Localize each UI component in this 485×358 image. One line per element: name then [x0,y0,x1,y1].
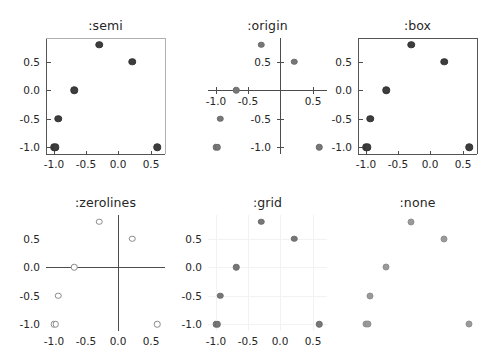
data-point [408,218,415,225]
y-tick-label: 0.5 [170,234,202,245]
y-tick-label: 0.5 [239,57,271,68]
data-point [55,115,63,123]
x-tick-mark [248,87,249,94]
data-point [217,293,224,300]
y-tick-mark [359,62,363,63]
x-tick-label: 0.5 [143,336,160,347]
y-tick-label: 0.5 [8,234,40,245]
y-tick-mark [359,90,363,91]
x-tick-mark [216,87,217,94]
panel-none: :none [0,0,485,358]
frame-top-spine [46,38,165,39]
x-tick-label: 0.0 [422,159,439,170]
panel-origin: :origin-1.0-0.50.50.5-0.5-1.0 [0,0,485,358]
x-tick-mark [313,87,314,94]
data-point [291,59,298,66]
x-tick-mark [86,151,87,155]
x-tick-label: 0.5 [305,96,322,107]
y-tick-label: -1.0 [8,319,40,330]
x-tick-label: -0.5 [238,336,259,347]
data-point [291,236,298,243]
gridline-vertical [280,215,281,331]
y-tick-label: 0.0 [320,85,352,96]
y-tick-mark [47,62,51,63]
data-point [52,321,59,328]
data-point [153,143,161,151]
data-point [258,219,265,226]
y-tick-label: -0.5 [8,291,40,302]
data-point [441,235,448,242]
x-tick-label: 0.5 [305,336,322,347]
x-tick-label: -1.0 [206,96,227,107]
zeroline-horizontal [46,267,165,268]
data-point [362,143,370,151]
y-tick-mark [359,147,363,148]
x-tick-label: -0.5 [76,336,97,347]
x-tick-label: 0.0 [110,336,127,347]
data-point [50,143,58,151]
data-point [362,321,369,328]
data-point [383,87,391,95]
frame-right-spine [165,38,166,154]
x-tick-label: -0.5 [238,96,259,107]
data-point [51,321,58,328]
x-tick-mark [463,151,464,155]
data-point [383,264,390,271]
y-tick-mark [359,119,363,120]
panel-box: :box-1.0-0.50.00.50.50.0-0.5-1.0 [0,0,485,358]
data-point [316,321,323,328]
y-tick-label: -1.0 [170,319,202,330]
data-point [316,144,323,151]
x-tick-mark [366,151,367,155]
frame-bottom-spine [46,154,165,155]
y-tick-label: 0.0 [170,262,202,273]
y-tick-label: 0.0 [8,262,40,273]
frame-bottom-spine [358,154,477,155]
data-point [52,143,60,151]
gridline-vertical [248,215,249,331]
gridline-horizontal [208,324,327,325]
frame-left-spine [358,38,359,154]
data-point [213,321,220,328]
panel-title-grid: :grid [208,195,327,210]
x-tick-mark [151,151,152,155]
y-tick-mark [47,147,51,148]
y-tick-label: -0.5 [239,114,271,125]
panel-grid: :grid-1.0-0.50.00.50.50.0-0.5-1.0 [0,0,485,358]
data-point [129,236,136,243]
x-tick-label: 0.0 [272,336,289,347]
data-point [364,321,371,328]
figure-canvas: :semi-1.0-0.50.00.50.50.0-0.5-1.0:origin… [0,0,485,358]
data-point [407,41,415,49]
gridline-horizontal [208,239,327,240]
data-point [367,115,375,123]
gridline-vertical [313,215,314,331]
x-tick-label: -0.5 [388,159,409,170]
y-tick-label: -1.0 [8,142,40,153]
x-tick-label: -1.0 [206,336,227,347]
panel-semi: :semi-1.0-0.50.00.50.50.0-0.5-1.0 [0,0,485,358]
data-point [258,42,265,49]
y-tick-label: 0.0 [8,85,40,96]
x-tick-label: -0.5 [76,159,97,170]
y-tick-label: 0.5 [8,57,40,68]
data-point [55,293,62,300]
y-tick-label: -0.5 [320,114,352,125]
panel-title-zerolines: :zerolines [46,195,165,210]
gridline-horizontal [208,296,327,297]
y-tick-label: 0.5 [320,57,352,68]
y-tick-mark [277,62,284,63]
zeroline-vertical [118,215,119,331]
data-point [213,144,220,151]
x-tick-mark [398,151,399,155]
panel-zerolines: :zerolines-1.0-0.50.00.50.50.0-0.5-1.0 [0,0,485,358]
data-point [71,264,78,271]
data-point [440,58,448,66]
data-point [128,58,136,66]
panel-title-none: :none [358,195,477,210]
x-tick-label: 0.0 [110,159,127,170]
panel-title-semi: :semi [46,18,165,33]
gridline-vertical [216,215,217,331]
data-point [233,87,240,94]
data-point [96,219,103,226]
